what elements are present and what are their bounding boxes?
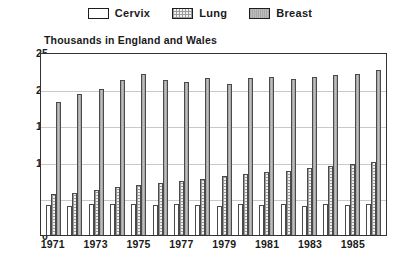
x-tick-label: 1971 xyxy=(41,238,65,250)
legend-label-cervix: Cervix xyxy=(115,8,150,19)
bar-breast-1980 xyxy=(248,78,253,235)
bar-breast-1982 xyxy=(291,79,296,235)
bar-chart: Thousands in England and Wales 051015202… xyxy=(0,30,400,272)
bar-breast-1986 xyxy=(376,70,381,235)
legend-item-lung: Lung xyxy=(172,8,227,19)
bar-group xyxy=(214,54,235,235)
bar-breast-1974 xyxy=(120,80,125,235)
bar-breast-1985 xyxy=(355,74,360,235)
bar-group xyxy=(299,54,320,235)
bar-group xyxy=(43,54,64,235)
bar-group xyxy=(277,54,298,235)
x-tick-label: 1983 xyxy=(298,238,322,250)
cervix-swatch xyxy=(88,8,109,19)
bar-group xyxy=(86,54,107,235)
legend-item-breast: Breast xyxy=(249,8,312,19)
bar-breast-1981 xyxy=(269,77,274,235)
x-tick-label: 1981 xyxy=(255,238,279,250)
bar-breast-1976 xyxy=(163,80,168,235)
x-tick-label: 1973 xyxy=(84,238,108,250)
legend-item-cervix: Cervix xyxy=(88,8,150,19)
bar-breast-1984 xyxy=(333,75,338,235)
bar-group xyxy=(150,54,171,235)
legend-label-lung: Lung xyxy=(199,8,227,19)
x-tick-label: 1975 xyxy=(126,238,150,250)
bar-group xyxy=(64,54,85,235)
chart-title: Thousands in England and Wales xyxy=(44,34,217,46)
bar-breast-1972 xyxy=(77,94,82,235)
x-tick-label: 1979 xyxy=(212,238,236,250)
breast-swatch xyxy=(249,8,270,19)
bar-group xyxy=(320,54,341,235)
bar-breast-1975 xyxy=(141,74,146,235)
chart-legend: Cervix Lung Breast xyxy=(0,8,400,19)
bar-group xyxy=(341,54,362,235)
bar-groups xyxy=(41,54,386,235)
lung-swatch xyxy=(172,8,193,19)
x-tick-label: 1985 xyxy=(341,238,365,250)
legend-label-breast: Breast xyxy=(276,8,312,19)
bar-group xyxy=(107,54,128,235)
bar-breast-1977 xyxy=(184,82,189,235)
bar-group xyxy=(256,54,277,235)
bar-group xyxy=(192,54,213,235)
bar-group xyxy=(235,54,256,235)
x-tick-label: 1977 xyxy=(169,238,193,250)
bar-breast-1983 xyxy=(312,77,317,235)
plot-area xyxy=(40,53,387,236)
bar-breast-1979 xyxy=(227,84,232,235)
bar-group xyxy=(171,54,192,235)
bar-breast-1978 xyxy=(205,78,210,235)
bar-breast-1971 xyxy=(56,102,61,235)
bar-group xyxy=(128,54,149,235)
bar-group xyxy=(363,54,384,235)
bar-breast-1973 xyxy=(99,89,104,235)
